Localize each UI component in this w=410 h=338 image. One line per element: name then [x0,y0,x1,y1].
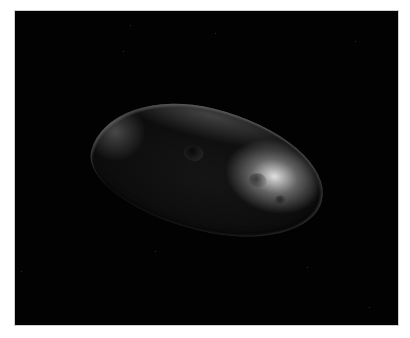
moon-limb [79,82,338,257]
moon-body [79,82,338,257]
star [21,271,22,272]
star [130,25,131,26]
star [355,41,356,42]
star [215,33,216,34]
star [369,307,370,308]
star [307,267,308,268]
star [155,251,156,252]
space-photo [15,11,398,325]
star [123,51,124,52]
